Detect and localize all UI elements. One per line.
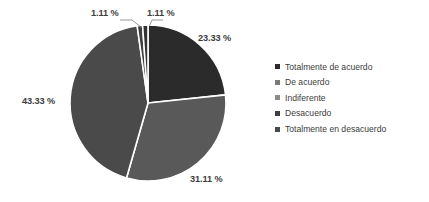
slice-label-de-acuerdo: 31.11 % [190, 174, 223, 184]
legend-item[interactable]: Totalmente de acuerdo [275, 59, 427, 75]
legend-swatch-icon [275, 127, 280, 132]
legend-item[interactable]: Indiferente [275, 90, 427, 106]
pie-slices-group [70, 25, 226, 181]
legend-item[interactable]: Desacuerdo [275, 106, 427, 122]
pie-chart-figure: 23.33 % 31.11 % 43.33 % 1.11 % 1.11 % To… [0, 0, 429, 202]
legend-item[interactable]: De acuerdo [275, 75, 427, 91]
legend-item[interactable]: Totalmente en desacuerdo [275, 121, 427, 137]
legend-item-label: Totalmente en desacuerdo [285, 125, 386, 134]
slice-label-desacuerdo: 1.11 % [91, 8, 119, 18]
legend-swatch-icon [275, 95, 280, 100]
slice-label-totalmente-de-acuerdo: 23.33 % [198, 33, 231, 43]
legend-swatch-icon [275, 64, 280, 69]
legend-item-label: De acuerdo [285, 78, 329, 87]
chart-legend: Totalmente de acuerdoDe acuerdoIndiferen… [275, 59, 427, 137]
legend-swatch-icon [275, 80, 280, 85]
slice-label-indiferente: 43.33 % [22, 96, 55, 106]
legend-swatch-icon [275, 111, 280, 116]
legend-item-label: Indiferente [285, 94, 326, 103]
slice-label-totalmente-en-desacuerdo: 1.11 % [147, 8, 175, 18]
legend-item-label: Desacuerdo [285, 109, 331, 118]
legend-item-label: Totalmente de acuerdo [285, 63, 372, 72]
